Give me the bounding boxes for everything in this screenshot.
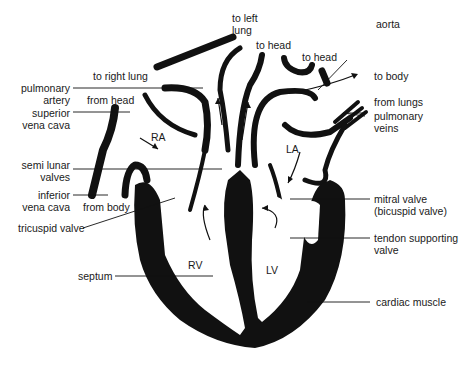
label-from-body: from body [83, 201, 130, 213]
label-to-head-1: to head [256, 39, 291, 51]
label-rv: RV [188, 259, 202, 271]
label-inferior-vena-cava: inferior vena cava [10, 189, 70, 213]
label-ra: RA [151, 131, 166, 143]
label-to-head-2: to head [302, 51, 337, 63]
label-semi-lunar-valves: semi lunar valves [10, 159, 70, 183]
label-to-left-lung: to left lung [232, 12, 258, 36]
label-septum: septum [78, 270, 112, 282]
label-to-body: to body [374, 70, 408, 82]
label-superior-vena-cava: superior vena cava [10, 107, 70, 131]
label-aorta: aorta [376, 18, 400, 30]
label-pulmonary-veins: pulmonary veins [374, 110, 423, 134]
label-to-right-lung: to right lung [93, 70, 148, 82]
label-from-head: from head [87, 94, 134, 106]
label-la: LA [286, 143, 299, 155]
heart-illustration [0, 0, 471, 365]
label-lv: LV [266, 264, 278, 276]
label-pulmonary-artery: pulmonary artery [10, 82, 70, 106]
label-tendon-supporting-valve: tendon supporting valve [374, 232, 458, 256]
heart-diagram: to left lung to head to head aorta to ri… [0, 0, 471, 365]
label-tricuspid-valve: tricuspid valve [18, 222, 85, 234]
label-cardiac-muscle: cardiac muscle [376, 296, 446, 308]
label-from-lungs: from lungs [374, 96, 423, 108]
label-mitral-valve: mitral valve (bicuspid valve) [374, 193, 447, 217]
